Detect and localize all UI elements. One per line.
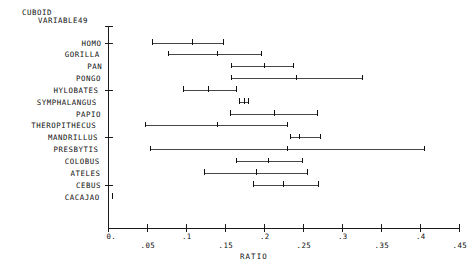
range-row [169,51,262,57]
range-row [232,75,363,81]
range-row [240,98,249,104]
range-row [183,86,236,92]
range-row [145,122,287,128]
plot-canvas [0,0,472,264]
axes-group [105,26,460,232]
range-row [151,146,425,152]
range-row [152,39,223,45]
range-row [232,63,294,68]
range-row [254,181,319,187]
range-row [204,169,307,175]
data-rows-group [112,39,424,199]
range-row [290,134,320,140]
cuboid-ratio-range-plot: CUBOID VARIABLE 49 HOMOGORILLAPANPONGOHY… [0,0,472,264]
range-row [230,110,317,116]
range-row [236,158,302,164]
